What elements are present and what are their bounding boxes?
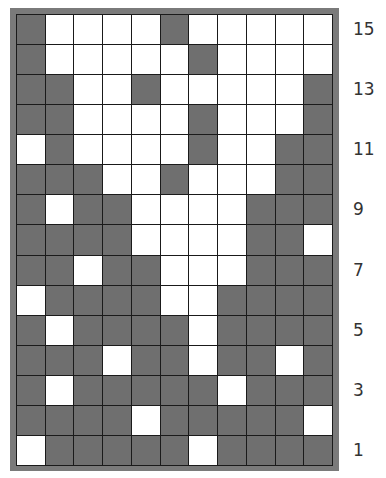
chart-cell-light [74, 15, 102, 44]
chart-cell-dark [304, 165, 332, 194]
chart-cell-light [218, 75, 246, 104]
chart-cell-dark [304, 286, 332, 315]
chart-cell-dark [161, 316, 189, 345]
row-label: 1 [340, 436, 386, 466]
chart-cell-dark [247, 286, 275, 315]
chart-cell-dark [46, 135, 74, 164]
chart-cell-dark [103, 195, 131, 224]
row-label [340, 345, 386, 375]
chart-cell-light [276, 75, 304, 104]
chart-cell-dark [218, 406, 246, 435]
chart-cell-light [132, 406, 160, 435]
row-label [340, 285, 386, 315]
chart-cell-dark [17, 316, 45, 345]
chart-cell-dark [103, 256, 131, 285]
chart-cell-light [189, 75, 217, 104]
chart-cell-dark [74, 165, 102, 194]
chart-cell-dark [103, 225, 131, 254]
chart-cell-dark [218, 286, 246, 315]
chart-cell-dark [304, 346, 332, 375]
chart-cell-light [74, 45, 102, 74]
row-label [340, 104, 386, 134]
chart-cell-dark [17, 256, 45, 285]
chart-cell-dark [132, 286, 160, 315]
chart-cell-dark [103, 376, 131, 405]
chart-cell-light [189, 436, 217, 465]
chart-cell-light [17, 135, 45, 164]
chart-cell-dark [74, 195, 102, 224]
chart-cell-light [103, 135, 131, 164]
chart-cell-dark [304, 376, 332, 405]
chart-cell-dark [17, 195, 45, 224]
chart-cell-light [276, 346, 304, 375]
chart-cell-dark [46, 105, 74, 134]
chart-cell-dark [74, 406, 102, 435]
chart-cell-dark [247, 316, 275, 345]
row-label: 15 [340, 14, 386, 44]
chart-cell-light [189, 225, 217, 254]
chart-cell-dark [276, 286, 304, 315]
chart-cell-dark [304, 195, 332, 224]
chart-cell-light [189, 256, 217, 285]
chart-cell-light [247, 75, 275, 104]
chart-cell-dark [74, 376, 102, 405]
chart-cell-light [161, 75, 189, 104]
row-label: 5 [340, 315, 386, 345]
chart-cell-light [304, 45, 332, 74]
chart-cell-dark [189, 45, 217, 74]
chart-cell-dark [17, 45, 45, 74]
chart-cell-light [247, 45, 275, 74]
chart-cell-light [17, 436, 45, 465]
chart-cell-dark [304, 105, 332, 134]
chart-cell-dark [276, 406, 304, 435]
row-label: 3 [340, 376, 386, 406]
chart-cell-light [189, 195, 217, 224]
chart-cell-dark [46, 346, 74, 375]
chart-cell-dark [103, 286, 131, 315]
row-label: 13 [340, 74, 386, 104]
chart-cell-dark [304, 135, 332, 164]
chart-cell-light [132, 195, 160, 224]
chart-cell-light [132, 105, 160, 134]
chart-cell-light [46, 15, 74, 44]
chart-cell-dark [247, 195, 275, 224]
chart-cell-light [74, 75, 102, 104]
chart-cell-dark [103, 316, 131, 345]
chart-cell-dark [276, 376, 304, 405]
chart-cell-light [161, 45, 189, 74]
chart-cell-dark [46, 256, 74, 285]
chart-cell-light [161, 286, 189, 315]
chart-cell-light [103, 346, 131, 375]
chart-cell-dark [103, 436, 131, 465]
chart-cell-light [161, 135, 189, 164]
row-number-labels: 15131197531 [340, 14, 386, 466]
chart-cell-dark [218, 316, 246, 345]
chart-cell-light [218, 165, 246, 194]
chart-cell-dark [161, 376, 189, 405]
chart-cell-dark [218, 436, 246, 465]
chart-cell-light [132, 165, 160, 194]
chart-cell-dark [161, 406, 189, 435]
chart-cell-dark [304, 436, 332, 465]
chart-cell-light [218, 135, 246, 164]
chart-cell-light [304, 225, 332, 254]
chart-cell-light [103, 15, 131, 44]
chart-cell-light [46, 45, 74, 74]
chart-cell-light [17, 286, 45, 315]
chart-cell-dark [46, 225, 74, 254]
chart-cell-light [74, 256, 102, 285]
chart-cell-light [247, 15, 275, 44]
chart-cell-dark [46, 436, 74, 465]
chart-cell-dark [17, 165, 45, 194]
chart-cell-dark [189, 376, 217, 405]
chart-cell-dark [304, 316, 332, 345]
chart-cell-light [218, 45, 246, 74]
chart-cell-dark [103, 406, 131, 435]
chart-cell-dark [189, 135, 217, 164]
chart-cell-dark [247, 346, 275, 375]
chart-cell-dark [132, 436, 160, 465]
chart-cell-light [46, 376, 74, 405]
chart-cell-light [132, 15, 160, 44]
chart-cell-dark [46, 75, 74, 104]
chart-cell-light [161, 256, 189, 285]
